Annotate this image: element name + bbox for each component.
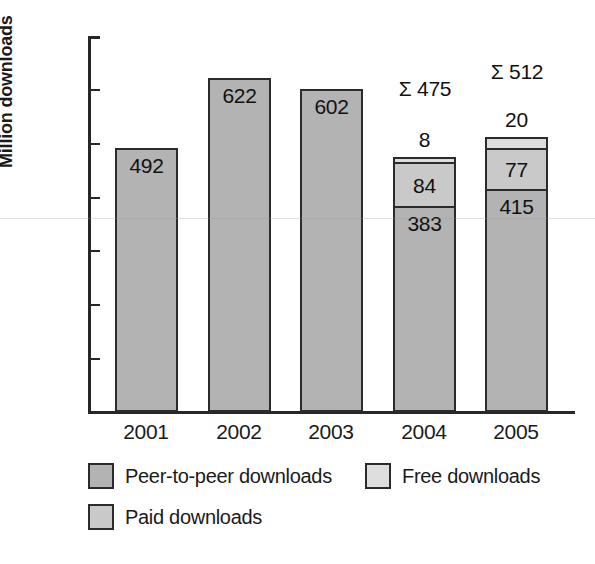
- legend-swatch-icon-paid: [88, 504, 114, 530]
- legend-item-peer-to-peer-downloads[interactable]: Peer-to-peer downloads: [88, 463, 332, 489]
- bar-total-2005: Σ 512: [452, 60, 582, 84]
- plot-area: 492 622 602 383 84 8 Σ 475: [88, 36, 575, 412]
- bar-segment-p2p-2005[interactable]: 415: [485, 189, 548, 412]
- bar-value-p2p-2004: 383: [395, 213, 454, 234]
- bar-segment-free-2005[interactable]: [485, 137, 548, 150]
- bar-2001[interactable]: 492: [115, 148, 178, 412]
- bar-segment-paid-2005[interactable]: 77: [485, 148, 548, 191]
- legend-label-paid: Paid downloads: [125, 506, 262, 529]
- bar-2002[interactable]: 622: [208, 78, 271, 412]
- legend-swatch-icon-peer-to-peer: [88, 463, 114, 489]
- bar-2003[interactable]: 602: [300, 89, 363, 412]
- bar-value-paid-2005: 77: [505, 159, 528, 180]
- bar-value-free-2004: 8: [393, 128, 456, 152]
- bar-2005[interactable]: 415 77 20: [485, 137, 548, 412]
- legend-item-paid-downloads[interactable]: Paid downloads: [88, 504, 262, 530]
- bar-2004[interactable]: 383 84 8: [393, 157, 456, 412]
- bar-value-p2p-2005: 415: [487, 196, 546, 217]
- legend-item-free-downloads[interactable]: Free downloads: [365, 463, 540, 489]
- bar-segment-paid-2004[interactable]: 84: [393, 162, 456, 208]
- bar-value-free-2005: 20: [485, 108, 548, 132]
- bar-segment-free-2004[interactable]: [393, 157, 456, 164]
- bar-value-p2p-2002: 622: [210, 85, 269, 106]
- legend-label-free: Free downloads: [402, 465, 540, 488]
- legend-swatch-icon-free: [365, 463, 391, 489]
- x-tick-label-2005: 2005: [461, 420, 571, 444]
- bar-segment-p2p-2004[interactable]: 383: [393, 206, 456, 412]
- bar-value-p2p-2001: 492: [117, 155, 176, 176]
- bar-value-p2p-2003: 602: [302, 96, 361, 117]
- bar-segment-p2p-2002[interactable]: 622: [208, 78, 271, 412]
- bar-chart: Million downloads 700 600 500 400 300 20…: [0, 0, 595, 564]
- legend-label-peer-to-peer: Peer-to-peer downloads: [125, 465, 332, 488]
- bar-value-paid-2004: 84: [413, 175, 436, 196]
- bar-segment-p2p-2003[interactable]: 602: [300, 89, 363, 412]
- bar-segment-p2p-2001[interactable]: 492: [115, 148, 178, 412]
- y-axis-title: Million downloads: [0, 15, 17, 168]
